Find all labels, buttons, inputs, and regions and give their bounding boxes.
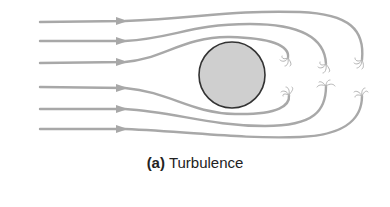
caption-text: Turbulence	[169, 154, 244, 171]
streamline-1	[40, 12, 362, 60]
eddy-1	[280, 56, 291, 66]
arrow-icon	[116, 125, 128, 133]
eddy-4	[317, 80, 335, 87]
flow-diagram	[0, 0, 390, 150]
eddy-5	[354, 58, 364, 69]
arrow-icon	[116, 17, 128, 25]
eddy-6	[354, 88, 368, 97]
arrow-icon	[116, 58, 128, 66]
arrow-icon	[116, 37, 128, 45]
caption-label: (a)	[147, 154, 165, 171]
arrow-icon	[116, 84, 128, 92]
eddy-3	[318, 62, 330, 73]
obstacle-circle	[199, 42, 265, 108]
eddy-2	[281, 87, 293, 96]
figure-caption: (a) Turbulence	[0, 154, 390, 171]
arrowheads	[116, 17, 128, 133]
arrow-icon	[116, 105, 128, 113]
